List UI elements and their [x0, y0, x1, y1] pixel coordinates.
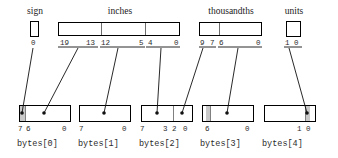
field-caption-2: thousandths	[198, 6, 264, 16]
inches-mid-to-byte1	[104, 48, 118, 113]
thousandths-lo-to-byte3	[227, 48, 238, 113]
byte-bit-label-2-2: 2	[172, 125, 177, 133]
byte-array-label-2: bytes[2]	[139, 140, 180, 149]
thousandths-hi-to-byte2-lo	[182, 48, 203, 113]
byte-bit-label-1-0: 7	[79, 125, 84, 133]
byte-bit-label-0-0: 7	[18, 125, 23, 133]
field-bit-label-thousandths-3: 0	[256, 39, 261, 47]
field-box-inches	[58, 22, 180, 36]
units-to-byte4	[289, 48, 307, 113]
field-bit-label-units-1: 0	[294, 39, 299, 47]
field-box-thousandths	[199, 22, 262, 36]
field-bit-label-units-0: 1	[285, 39, 290, 47]
sign-to-byte0-bit7	[22, 48, 33, 113]
byte-divider-4-0	[305, 106, 306, 121]
field-divider-thousandths-0	[219, 23, 220, 35]
field-divider-inches-0	[101, 23, 102, 35]
byte-bit-label-3-0: 6	[205, 125, 210, 133]
byte-array-label-4: bytes[4]	[262, 140, 303, 149]
byte-box-1	[79, 105, 131, 122]
diagram-canvas: signinchesthousandthsunits01913125409760…	[0, 0, 338, 158]
byte-bit-label-3-1: 0	[245, 125, 250, 133]
byte-bit-label-2-0: 7	[140, 125, 145, 133]
field-bit-label-inches-4: 4	[148, 39, 153, 47]
byte-array-label-3: bytes[3]	[200, 140, 241, 149]
field-bit-label-thousandths-2: 6	[219, 39, 224, 47]
field-bit-label-thousandths-0: 9	[200, 39, 205, 47]
byte-box-4	[264, 105, 316, 122]
byte-bit-label-2-1: 3	[163, 125, 168, 133]
field-bit-label-inches-3: 5	[139, 39, 144, 47]
inches-lo-to-byte2-hi	[157, 48, 161, 113]
byte-box-3	[202, 105, 254, 122]
byte-bit-label-1-1: 0	[122, 125, 127, 133]
byte-array-label-1: bytes[1]	[78, 140, 119, 149]
inches-hi-to-byte0	[44, 48, 78, 113]
byte-divider-0-0	[25, 106, 26, 121]
field-caption-3: units	[277, 6, 311, 16]
byte-bit-label-4-0: 1	[297, 125, 302, 133]
field-box-units	[286, 21, 301, 37]
field-caption-1: inches	[100, 6, 140, 16]
byte-bit-label-0-2: 0	[62, 125, 67, 133]
field-bit-label-inches-1: 13	[86, 39, 95, 47]
field-bit-label-inches-2: 12	[101, 39, 110, 47]
byte-box-2	[141, 105, 193, 122]
byte-box-0	[19, 105, 71, 122]
field-bit-label-sign-0: 0	[31, 39, 36, 47]
byte-bit-label-2-3: 0	[183, 125, 188, 133]
field-box-sign	[30, 21, 39, 37]
field-bit-label-inches-0: 19	[60, 39, 69, 47]
byte-bit-label-4-1: 0	[306, 125, 311, 133]
byte-divider-3-0	[210, 106, 211, 121]
field-caption-0: sign	[18, 6, 52, 16]
byte-divider-2-0	[173, 106, 174, 121]
field-bit-label-thousandths-1: 7	[210, 39, 215, 47]
byte-array-label-0: bytes[0]	[17, 140, 58, 149]
byte-bit-label-0-1: 6	[26, 125, 31, 133]
field-divider-inches-1	[145, 23, 146, 35]
field-bit-label-inches-5: 0	[174, 39, 179, 47]
